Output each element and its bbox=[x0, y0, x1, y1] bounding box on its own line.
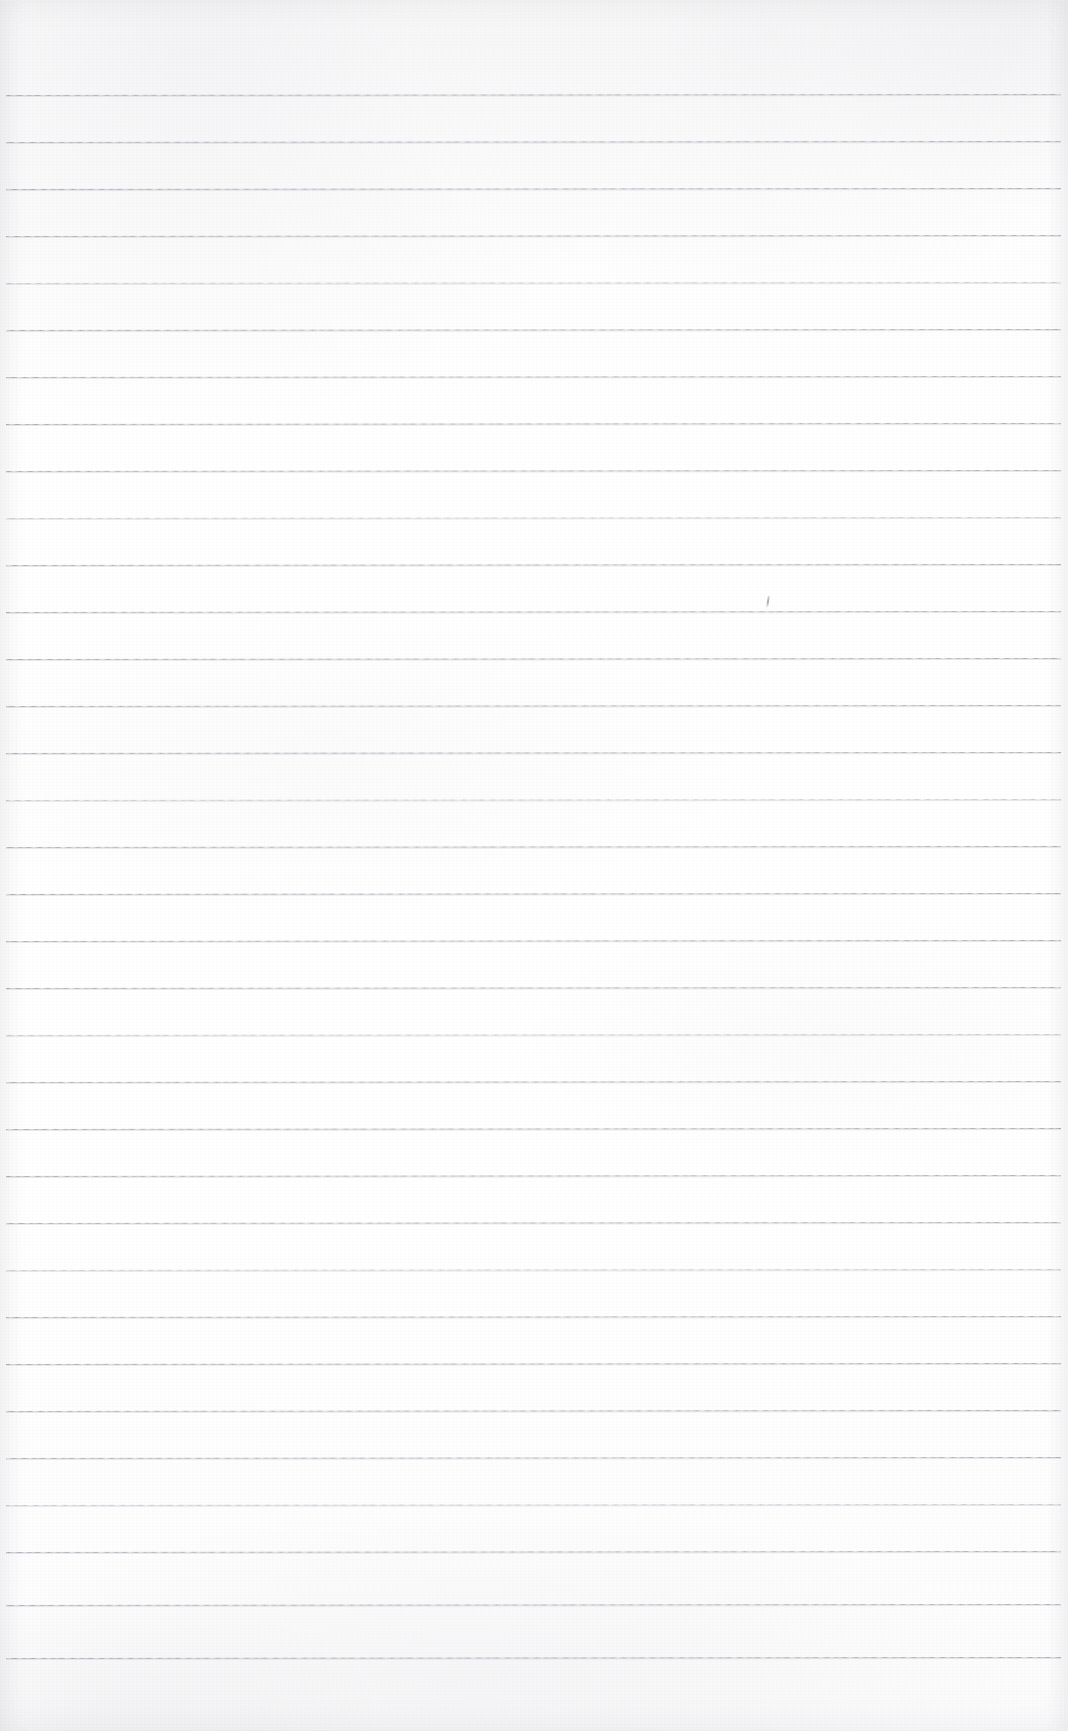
rule-line bbox=[6, 141, 1061, 144]
rule-line-halo bbox=[6, 142, 1061, 144]
rule-line bbox=[6, 376, 1061, 379]
rule-line bbox=[6, 846, 1061, 849]
rule-line-halo bbox=[6, 1129, 1061, 1131]
rule-line bbox=[6, 1504, 1061, 1507]
rule-line-halo bbox=[6, 1658, 1061, 1660]
rule-line-halo bbox=[6, 377, 1061, 379]
rule-line-halo bbox=[6, 1270, 1061, 1272]
rule-line bbox=[6, 235, 1061, 238]
rule-line bbox=[6, 1081, 1061, 1084]
rule-line bbox=[6, 1034, 1061, 1037]
rule-line bbox=[6, 1222, 1061, 1225]
rule-line-halo bbox=[6, 800, 1061, 802]
rule-line bbox=[6, 470, 1061, 473]
rule-line-halo bbox=[6, 283, 1061, 285]
rule-line bbox=[6, 1604, 1061, 1607]
rule-line-halo bbox=[6, 847, 1061, 849]
rule-line-halo bbox=[6, 988, 1061, 990]
rule-line bbox=[6, 1551, 1061, 1554]
rule-line bbox=[6, 188, 1061, 191]
rule-line bbox=[6, 893, 1061, 896]
rule-line bbox=[6, 799, 1061, 802]
rule-line-halo bbox=[6, 1505, 1061, 1507]
rule-line-halo bbox=[6, 1176, 1061, 1178]
rule-line-halo bbox=[6, 424, 1061, 426]
rule-line bbox=[6, 94, 1061, 97]
ruled-lines-group bbox=[0, 0, 1068, 1731]
rule-line-halo bbox=[6, 941, 1061, 943]
rule-line bbox=[6, 517, 1061, 520]
rule-line bbox=[6, 752, 1061, 755]
rule-line-halo bbox=[6, 471, 1061, 473]
notebook-page bbox=[0, 0, 1068, 1731]
rule-line-halo bbox=[6, 236, 1061, 238]
rule-line-halo bbox=[6, 330, 1061, 332]
rule-line bbox=[6, 564, 1061, 567]
rule-line bbox=[6, 987, 1061, 990]
rule-line-halo bbox=[6, 1411, 1061, 1413]
rule-line-halo bbox=[6, 706, 1061, 708]
rule-line bbox=[6, 1128, 1061, 1131]
rule-line-halo bbox=[6, 95, 1061, 97]
rule-line-halo bbox=[6, 1364, 1061, 1366]
rule-line-halo bbox=[6, 659, 1061, 661]
rule-line-halo bbox=[6, 518, 1061, 520]
rule-line bbox=[6, 1316, 1061, 1319]
rule-line-halo bbox=[6, 753, 1061, 755]
rule-line bbox=[6, 658, 1061, 661]
rule-line bbox=[6, 705, 1061, 708]
rule-line bbox=[6, 611, 1061, 614]
rule-line bbox=[6, 1363, 1061, 1366]
rule-line bbox=[6, 1269, 1061, 1272]
rule-line-halo bbox=[6, 894, 1061, 896]
rule-line bbox=[6, 282, 1061, 285]
rule-line-halo bbox=[6, 565, 1061, 567]
rule-line-halo bbox=[6, 1317, 1061, 1319]
rule-line bbox=[6, 1410, 1061, 1413]
rule-line bbox=[6, 1457, 1061, 1460]
rule-line-halo bbox=[6, 1458, 1061, 1460]
rule-line-halo bbox=[6, 1605, 1061, 1607]
rule-line bbox=[6, 329, 1061, 332]
rule-line-halo bbox=[6, 1552, 1061, 1554]
rule-line bbox=[6, 1657, 1061, 1660]
rule-line bbox=[6, 1175, 1061, 1178]
rule-line-halo bbox=[6, 1035, 1061, 1037]
rule-line bbox=[6, 423, 1061, 426]
rule-line-halo bbox=[6, 1223, 1061, 1225]
rule-line bbox=[6, 940, 1061, 943]
rule-line-halo bbox=[6, 1082, 1061, 1084]
rule-line-halo bbox=[6, 189, 1061, 191]
rule-line-halo bbox=[6, 612, 1061, 614]
